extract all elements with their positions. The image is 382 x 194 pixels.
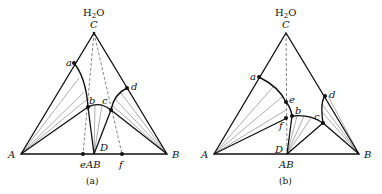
label-c: c [102,95,108,106]
tie-lines-b-field [113,93,167,154]
compound-point-label: D [99,142,108,153]
panel-a: H2O C A B AB D a b c d e f (a) [7,7,179,186]
edge-c-b [323,123,359,154]
point-a [257,75,261,79]
label-f: f [118,159,125,170]
label-e: e [80,159,86,170]
compound-label: AB [278,159,294,170]
label-a: a [250,71,256,82]
label-d: d [131,81,137,92]
compound-label: AB [85,159,101,170]
dashed-line-c-f [94,33,122,154]
caption-b: (b) [279,176,292,186]
point-b [290,114,294,118]
point-c [321,121,325,125]
point-f [284,116,288,120]
label-d: d [329,89,335,100]
dashed-line-c-e [83,33,94,154]
curve-c-d [322,96,325,123]
label-f: f [278,120,285,131]
point-c [109,108,113,112]
point-c-apex [93,32,96,35]
point-e [81,152,85,156]
apex-label: C [90,19,98,30]
apex-label: C [282,19,290,30]
label-e: e [289,94,295,105]
vertex-a-label: A [200,149,208,160]
point-a [72,61,76,65]
panel-b: H2O C A B AB D a b c d e f (b) [200,7,371,186]
point-d [125,86,129,90]
ternary-phase-diagrams: H2O C A B AB D a b c d e f (a) [0,0,382,194]
label-b: b [89,95,95,106]
compound-point-label: D [274,144,283,155]
vertex-b-label: B [171,149,179,160]
point-d [323,94,327,98]
edge-a-b [21,107,88,154]
label-c: c [314,111,320,122]
label-a: a [66,57,72,68]
edge-b-ab [88,107,94,154]
point-f [120,152,124,156]
dashed-line-c-ab [286,33,287,154]
vertex-a-label: A [7,149,15,160]
edge-ab-c [287,123,323,154]
label-b: b [295,105,301,116]
vertex-b-label: B [363,149,371,160]
point-e [284,100,288,104]
caption-a: (a) [86,176,98,186]
